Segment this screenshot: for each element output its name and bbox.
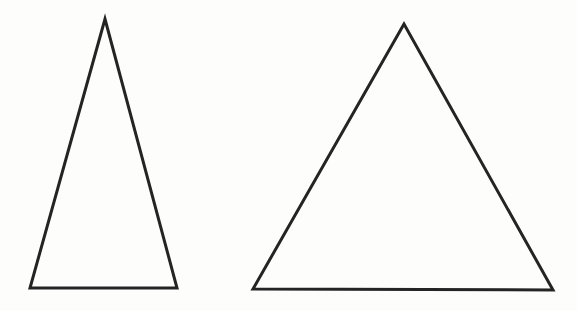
right-triangle: [253, 24, 553, 290]
left-triangle: [30, 19, 177, 288]
triangles-drawing: [0, 0, 577, 311]
diagram-canvas: [0, 0, 577, 311]
